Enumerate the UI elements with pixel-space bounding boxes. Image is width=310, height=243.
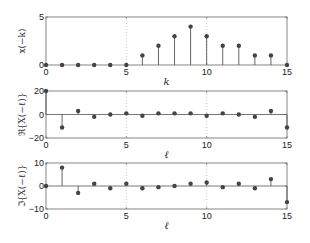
stem-marker (204, 180, 208, 184)
x-tick-label: 5 (124, 211, 129, 221)
y-tick-label: 0 (39, 60, 44, 70)
y-axis-label: x(−k) (17, 28, 27, 53)
stem-marker (221, 185, 225, 189)
stem-marker (156, 44, 160, 48)
stem-marker (44, 89, 48, 93)
stem-marker (60, 165, 64, 169)
stem-marker (124, 111, 128, 115)
stem-marker (285, 63, 289, 67)
y-tick-label: 20 (34, 86, 44, 96)
x-tick-label: 15 (282, 211, 292, 221)
stem-marker (253, 115, 257, 119)
stem-marker (285, 125, 289, 129)
y-tick-label: 0 (39, 181, 44, 191)
stem-marker (204, 34, 208, 38)
stem-marker (172, 111, 176, 115)
stem-marker (237, 112, 241, 116)
x-tick-label: 0 (43, 211, 48, 221)
stem-marker (269, 177, 273, 181)
stem-marker (188, 182, 192, 186)
stem-marker (44, 184, 48, 188)
x-axis-label: ℓ (164, 149, 168, 160)
plot-imag-X-minus-l: 051015−10010ℓℑ{X(−ℓ)} (17, 158, 292, 231)
stem-marker (108, 112, 112, 116)
stem-marker (269, 109, 273, 113)
stem-marker (221, 44, 225, 48)
stem-plot-figure: 05101505kx(−k) 051015−20020ℓℜ{X(−ℓ)} 051… (0, 0, 310, 243)
stem-marker (237, 44, 241, 48)
stem-marker (140, 53, 144, 57)
x-tick-label: 15 (282, 67, 292, 77)
x-axis-label: k (163, 76, 169, 87)
stem-marker (124, 182, 128, 186)
stem-marker (92, 63, 96, 67)
stem-marker (204, 113, 208, 117)
x-tick-label: 10 (202, 67, 212, 77)
x-tick-label: 0 (43, 140, 48, 150)
y-tick-label: −10 (29, 204, 44, 214)
x-tick-label: 10 (202, 211, 212, 221)
plot-x-minus-k: 05101505kx(−k) (17, 12, 292, 87)
x-tick-label: 10 (202, 140, 212, 150)
x-tick-label: 5 (124, 140, 129, 150)
x-tick-label: 0 (43, 67, 48, 77)
stem-marker (188, 111, 192, 115)
stem-marker (253, 53, 257, 57)
stem-marker (60, 125, 64, 129)
stem-marker (285, 200, 289, 204)
stem-marker (92, 115, 96, 119)
stem-marker (221, 111, 225, 115)
stem-marker (172, 184, 176, 188)
stem-marker (253, 186, 257, 190)
x-tick-label: 5 (124, 67, 129, 77)
y-tick-label: −20 (29, 133, 44, 143)
stem-marker (172, 34, 176, 38)
y-tick-label: 10 (34, 158, 44, 168)
stem-marker (92, 182, 96, 186)
stem-marker (140, 186, 144, 190)
stem-marker (140, 113, 144, 117)
stem-marker (156, 185, 160, 189)
stem-marker (269, 53, 273, 57)
y-tick-label: 5 (39, 12, 44, 22)
stem-marker (156, 111, 160, 115)
y-axis-label: ℜ{X(−ℓ)} (17, 93, 27, 137)
y-axis-label: ℑ{X(−ℓ)} (17, 165, 27, 208)
stem-marker (188, 24, 192, 28)
x-tick-label: 15 (282, 140, 292, 150)
stem-marker (76, 191, 80, 195)
stem-marker (44, 63, 48, 67)
axes-box (46, 17, 287, 65)
x-axis-label: ℓ (164, 220, 168, 231)
plot-real-X-minus-l: 051015−20020ℓℜ{X(−ℓ)} (17, 86, 292, 160)
stem-marker (60, 63, 64, 67)
y-tick-label: 0 (39, 110, 44, 120)
stem-marker (108, 63, 112, 67)
stem-marker (237, 182, 241, 186)
stem-marker (108, 186, 112, 190)
stem-marker (124, 63, 128, 67)
stem-marker (76, 109, 80, 113)
stem-marker (76, 63, 80, 67)
